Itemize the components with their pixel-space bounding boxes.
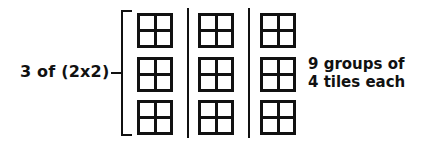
tile-horizontal-divider (201, 73, 231, 76)
right-caption-line-1: 9 groups of (308, 55, 405, 73)
tile-2-2 (198, 57, 234, 92)
column-separator-1 (187, 8, 189, 138)
tile-2-1 (198, 13, 234, 48)
tile-horizontal-divider (263, 29, 293, 32)
tile-3-3 (260, 100, 296, 135)
right-caption: 9 groups of 4 tiles each (308, 55, 405, 91)
column-separator-2 (248, 8, 250, 138)
tile-1-2 (137, 57, 173, 92)
right-caption-line-2: 4 tiles each (308, 73, 405, 91)
tile-horizontal-divider (201, 29, 231, 32)
tile-horizontal-divider (263, 116, 293, 119)
tile-1-1 (137, 13, 173, 48)
tile-horizontal-divider (140, 116, 170, 119)
tiles-grouping-figure: 3 of (2x2) (0, 0, 432, 146)
tile-column-2 (198, 13, 234, 134)
tile-column-3 (260, 13, 296, 134)
tile-horizontal-divider (263, 73, 293, 76)
tile-1-3 (137, 100, 173, 135)
left-caption-label: 3 of (2x2) (20, 62, 109, 82)
tile-3-2 (260, 57, 296, 92)
tile-horizontal-divider (140, 29, 170, 32)
tile-horizontal-divider (140, 73, 170, 76)
tile-3-1 (260, 13, 296, 48)
tile-horizontal-divider (201, 116, 231, 119)
tile-2-3 (198, 100, 234, 135)
group-bracket (121, 10, 132, 136)
tile-column-1 (137, 13, 173, 134)
